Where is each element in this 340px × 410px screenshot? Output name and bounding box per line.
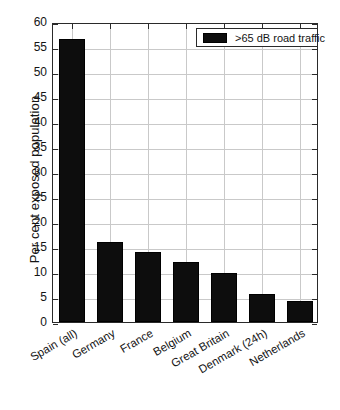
bar: [173, 262, 200, 322]
y-tick-mark: [312, 124, 317, 125]
x-tick-label: Spain (all): [28, 327, 79, 363]
bar: [135, 252, 162, 322]
y-tick-mark: [53, 99, 58, 100]
gridline-horizontal: [53, 224, 317, 225]
y-tick-mark: [312, 24, 317, 25]
y-tick-mark: [312, 224, 317, 225]
gridline-horizontal: [53, 149, 317, 150]
gridline-horizontal: [53, 124, 317, 125]
x-tick-mark: [110, 24, 111, 29]
bar: [59, 39, 86, 323]
y-tick-mark: [53, 49, 58, 50]
y-tick-mark: [312, 249, 317, 250]
y-tick-mark: [53, 149, 58, 150]
x-tick-label: Great Britain: [169, 327, 231, 370]
y-tick-mark: [312, 274, 317, 275]
bar: [211, 273, 238, 322]
chart-legend: >65 dB road traffic: [196, 28, 318, 47]
y-tick-mark: [53, 74, 58, 75]
y-tick-mark: [53, 199, 58, 200]
y-tick-mark: [53, 274, 58, 275]
y-tick-mark: [53, 249, 58, 250]
gridline-horizontal: [53, 49, 317, 50]
y-tick-mark: [312, 324, 317, 325]
y-tick-label: 60: [22, 15, 47, 29]
gridline-horizontal: [53, 74, 317, 75]
gridline-horizontal: [53, 249, 317, 250]
gridline-vertical: [300, 24, 301, 322]
y-axis-title: Per cent exposed population: [27, 50, 42, 310]
plot-area: [52, 23, 318, 323]
y-tick-mark: [53, 24, 58, 25]
gridline-horizontal: [53, 99, 317, 100]
x-tick-label: France: [118, 327, 155, 355]
y-tick-mark: [53, 224, 58, 225]
y-tick-mark: [312, 74, 317, 75]
y-tick-mark: [53, 174, 58, 175]
y-tick-mark: [53, 299, 58, 300]
gridline-horizontal: [53, 174, 317, 175]
x-tick-label: Germany: [70, 327, 117, 361]
x-tick-label: Belgium: [151, 327, 193, 358]
y-tick-mark: [53, 124, 58, 125]
gridline-vertical: [262, 24, 263, 322]
x-tick-mark: [148, 24, 149, 29]
bar: [287, 301, 314, 323]
y-tick-mark: [53, 324, 58, 325]
x-tick-label: Denmark (24h): [197, 327, 269, 376]
x-tick-mark: [72, 24, 73, 29]
y-tick-label: 0: [22, 315, 47, 329]
y-tick-mark: [312, 174, 317, 175]
y-tick-mark: [312, 99, 317, 100]
y-tick-mark: [312, 199, 317, 200]
y-tick-mark: [312, 149, 317, 150]
x-tick-label: Netherlands: [247, 327, 307, 368]
chart-figure: Per cent exposed population 051015202530…: [0, 0, 340, 410]
y-tick-mark: [312, 49, 317, 50]
bar: [249, 294, 276, 322]
legend-label-road-traffic: >65 dB road traffic: [235, 32, 325, 44]
gridline-horizontal: [53, 199, 317, 200]
legend-swatch-road-traffic: [203, 33, 227, 43]
x-tick-mark: [186, 24, 187, 29]
bar: [97, 242, 124, 322]
